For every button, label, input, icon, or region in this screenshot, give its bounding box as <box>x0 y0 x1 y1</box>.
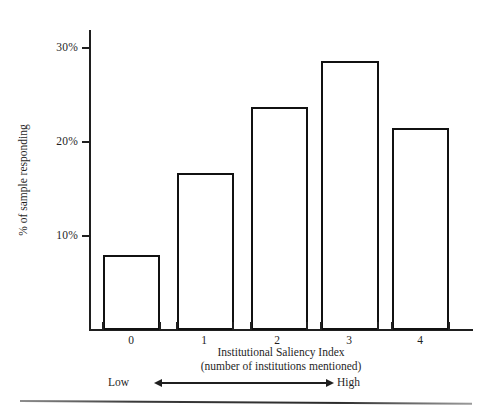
bar-category-1 <box>177 173 234 330</box>
x-axis-title-line1: Institutional Saliency Index <box>217 346 344 358</box>
x-tick-mark-a <box>102 322 104 331</box>
bar-category-3 <box>321 61 379 330</box>
plot-area <box>89 30 472 330</box>
saliency-scale-row: Low High <box>89 374 473 394</box>
x-tick-mark-j <box>448 322 450 331</box>
y-tick-label-30: 30% <box>56 42 78 54</box>
x-tick-mark-e <box>250 322 252 331</box>
y-tick-label-10: 10% <box>56 230 78 242</box>
x-tick-mark-h <box>377 322 379 331</box>
x-tick-mark-d <box>232 322 234 331</box>
double-arrow-icon <box>154 382 334 384</box>
bar-category-0 <box>103 255 160 330</box>
x-axis-title-line2: (number of institutions mentioned) <box>89 360 473 374</box>
x-tick-mark-g <box>320 322 322 331</box>
arrow-shaft <box>159 382 329 384</box>
x-tick-mark-b <box>159 322 161 331</box>
x-tick-mark-c <box>176 322 178 331</box>
x-tick-mark-f <box>306 322 308 331</box>
scale-label-high: High <box>337 375 360 389</box>
x-axis-title: Institutional Saliency Index (number of … <box>89 346 473 373</box>
page-divider-rule <box>20 400 472 405</box>
y-axis-title: % of sample responding <box>16 100 30 260</box>
bar-category-2 <box>251 107 308 330</box>
x-tick-mark-i <box>391 322 393 331</box>
y-tick-label-20: 20% <box>56 136 78 148</box>
arrow-head-right-icon <box>326 379 334 387</box>
bar-category-4 <box>392 128 449 330</box>
bar-chart-figure: % of sample responding 30% 20% 10% 0 1 2… <box>0 0 496 420</box>
scale-label-low: Low <box>108 375 129 389</box>
